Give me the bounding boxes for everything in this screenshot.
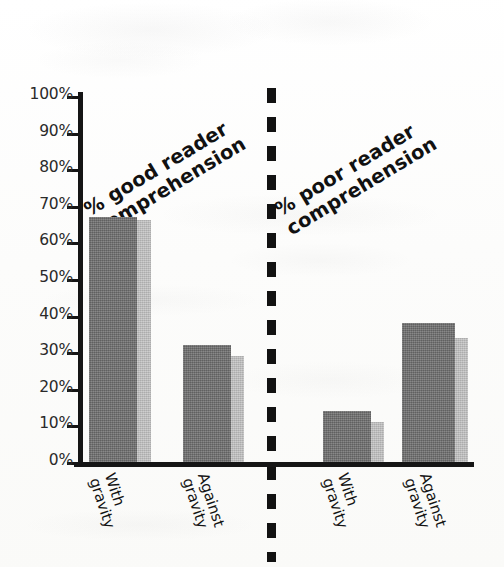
x-category-label-poor-against-gravity: Againstgravity bbox=[401, 471, 449, 534]
y-axis-line bbox=[78, 92, 83, 466]
bar-secondary-poor-with-gravity bbox=[371, 422, 384, 462]
bar-main-poor-with-gravity bbox=[323, 411, 371, 462]
bar-secondary-poor-against-gravity bbox=[455, 338, 468, 462]
y-tick-label-10: 10% bbox=[39, 414, 73, 432]
y-tick-label-70: 70% bbox=[39, 195, 73, 213]
chart-figure: % good readercomprehension % poor reader… bbox=[0, 0, 504, 567]
x-category-label-good-with-gravity: Withgravity bbox=[86, 471, 133, 530]
bar-main-good-against-gravity bbox=[183, 345, 231, 462]
y-tick-label-20: 20% bbox=[39, 378, 73, 396]
bar-main-poor-against-gravity bbox=[402, 323, 455, 462]
bar-main-good-with-gravity bbox=[89, 217, 137, 462]
plot-area: 100% 90% 80% 70% 60% 50% 40% 30% bbox=[80, 96, 476, 462]
y-tick-label-0: 0% bbox=[49, 451, 73, 469]
bar-secondary-good-with-gravity bbox=[137, 220, 151, 462]
bar-secondary-good-against-gravity bbox=[231, 356, 244, 462]
y-tick-label-30: 30% bbox=[39, 341, 73, 359]
y-tick-label-60: 60% bbox=[39, 231, 73, 249]
x-category-label-good-against-gravity: Againstgravity bbox=[179, 471, 227, 534]
x-axis-line bbox=[74, 462, 474, 467]
y-tick-label-100: 100% bbox=[29, 85, 73, 103]
y-tick-label-80: 80% bbox=[39, 158, 73, 176]
y-tick-label-90: 90% bbox=[39, 122, 73, 140]
y-tick-label-40: 40% bbox=[39, 305, 73, 323]
x-category-label-poor-with-gravity: Withgravity bbox=[319, 471, 366, 530]
y-tick-label-50: 50% bbox=[39, 268, 73, 286]
